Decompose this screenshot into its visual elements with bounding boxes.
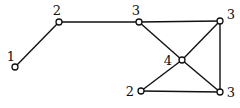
vertex-degree-label: 1 xyxy=(7,49,15,64)
edge-c-e xyxy=(139,22,182,60)
edge-e-f xyxy=(141,60,182,91)
edge-a-b xyxy=(15,22,59,67)
vertex-degree-label: 3 xyxy=(132,3,140,18)
labels: 1233423 xyxy=(7,3,235,100)
vertex-c xyxy=(136,19,142,25)
vertex-degree-label: 2 xyxy=(53,3,61,18)
vertex-degree-label: 3 xyxy=(227,85,235,100)
graph-diagram: 1233423 xyxy=(0,0,240,108)
edge-e-g xyxy=(182,60,220,92)
vertex-f xyxy=(138,88,144,94)
vertex-degree-label: 4 xyxy=(164,53,172,68)
edges xyxy=(15,21,220,92)
vertex-b xyxy=(56,19,62,25)
vertex-d xyxy=(217,18,223,24)
vertex-e xyxy=(179,57,185,63)
nodes xyxy=(12,18,223,95)
vertex-degree-label: 3 xyxy=(227,7,235,22)
vertex-degree-label: 2 xyxy=(126,84,134,99)
edge-f-g xyxy=(141,91,220,92)
vertex-g xyxy=(217,89,223,95)
vertex-a xyxy=(12,64,18,70)
edge-d-e xyxy=(182,21,220,60)
edge-c-d xyxy=(139,21,220,22)
